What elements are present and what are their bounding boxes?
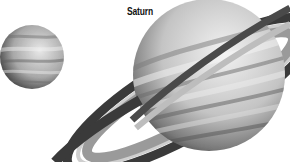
small-planet [0, 25, 64, 89]
planet-label: Saturn [127, 6, 153, 17]
planets-artwork [0, 0, 290, 162]
saturn-illustration: Saturn [0, 0, 290, 162]
